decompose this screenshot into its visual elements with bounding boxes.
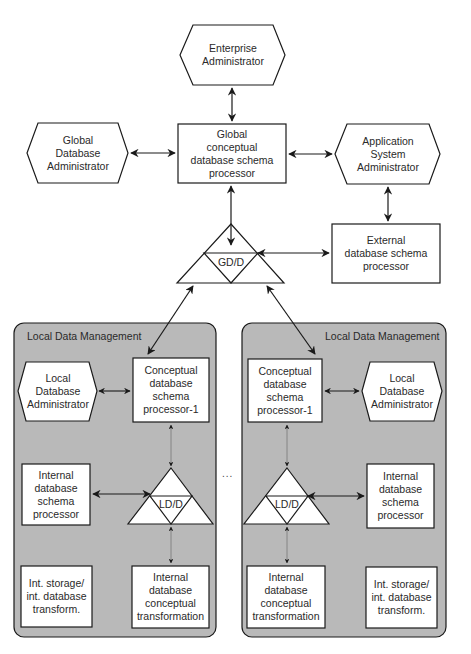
left-int-storage-label: Int. storage/ int. database transform. (21, 566, 92, 627)
ellipsis-more-panels: ... (222, 468, 233, 479)
diagram-canvas (0, 0, 471, 654)
right-int-storage-label: Int. storage/ int. database transform. (366, 567, 437, 628)
global-db-admin-label: Global Database Administrator (32, 123, 124, 183)
left-internal-conceptual-transformation-label: Internal database conceptual transformat… (132, 566, 209, 628)
left-conceptual-processor-label: Conceptual database schema processor-1 (133, 358, 209, 422)
left-ldd-label: LD/D (150, 497, 192, 511)
right-internal-conceptual-transformation-label: Internal database conceptual transformat… (247, 566, 325, 628)
right-panel-title: Local Data Management (325, 330, 439, 342)
left-internal-schema-processor-label: Internal database schema processor (22, 464, 90, 525)
external-schema-processor-label: External database schema processor (332, 224, 440, 283)
left-panel-title: Local Data Management (27, 330, 141, 342)
app-system-admin-label: Application System Administrator (340, 124, 436, 184)
gdd-label: GD/D (204, 255, 258, 269)
right-conceptual-processor-label: Conceptual database schema processor-1 (248, 359, 322, 422)
global-schema-processor-label: Global conceptual database schema proces… (178, 124, 286, 183)
enterprise-admin-label: Enterprise Administrator (186, 25, 280, 85)
right-local-admin-label: Local Database Administrator (366, 362, 438, 421)
right-ldd-label: LD/D (266, 497, 308, 511)
left-local-admin-label: Local Database Administrator (22, 362, 94, 421)
right-internal-schema-processor-label: Internal database schema processor (367, 464, 434, 528)
